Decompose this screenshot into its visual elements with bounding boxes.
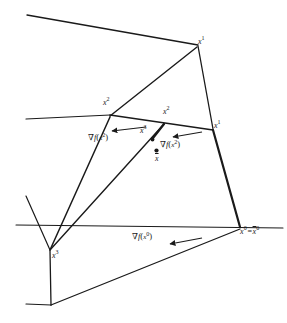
hyperplane-lines — [16, 15, 283, 228]
label-x2-left: x2 — [103, 99, 110, 107]
label-x3-mid: x3 — [140, 127, 147, 135]
label-x1-top: x1 — [198, 38, 205, 46]
label-grad-f-x0: ∇f(x0) — [132, 232, 152, 241]
cut-line-top — [27, 15, 198, 45]
diagram-canvas — [0, 0, 287, 323]
cut-line-middle-left — [26, 115, 110, 119]
label-grad-f-x2-left: ∇f(x2) — [88, 133, 108, 142]
label-x2-mid: x2 — [163, 108, 170, 116]
label-x3-bottom: x3 — [52, 252, 59, 260]
label-grad-f-x2-right: ∇f(x2) — [160, 140, 180, 149]
grad-f-x0-arrow — [170, 238, 202, 244]
label-x0-pair: x0=x0 — [240, 228, 260, 236]
point-marker-xbar — [154, 148, 158, 152]
edge-left-spur-x3 — [26, 196, 50, 250]
optimization-diagram-figure: x1 x2 x2 x3 x1 x3 x0=x0 x ∇f(x2) ∇f(x2) … — [0, 0, 287, 323]
grad-f-x2-right-arrow — [173, 132, 202, 137]
polytope-edges — [26, 46, 240, 305]
edge-x1top-x1right — [198, 46, 213, 129]
edge-x1right-x0 — [213, 130, 240, 227]
label-x1-right: x1 — [214, 122, 221, 130]
label-xbar-center: x — [155, 155, 159, 163]
edge-x2mid-x3mid — [153, 124, 164, 138]
edge-bottom-foot — [26, 304, 51, 305]
point-marker-x3-mid — [151, 138, 155, 142]
edge-x1top-x2left — [110, 47, 197, 116]
edge-x3-vertical — [50, 251, 51, 305]
point-markers — [151, 138, 159, 153]
